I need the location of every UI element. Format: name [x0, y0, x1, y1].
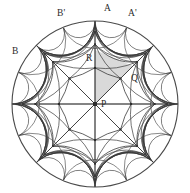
- geodesic-arc: [95, 152, 151, 182]
- vertex-marker: [52, 145, 54, 147]
- vertex-marker: [120, 77, 122, 79]
- geodesic-arc: [16, 104, 46, 160]
- label-b: B: [12, 47, 19, 57]
- vertex-marker: [136, 145, 138, 147]
- label-q: Q: [131, 74, 138, 84]
- geodesic-arc: [69, 130, 95, 141]
- vertex-marker: [154, 103, 156, 105]
- vertex-marker: [58, 103, 60, 105]
- vertex-marker: [136, 61, 138, 63]
- label-p: P: [101, 100, 106, 110]
- geodesic-arc: [39, 25, 95, 55]
- vertex-marker: [68, 77, 70, 79]
- hyperbolic-tessellation-figure: AA'B'BRQP: [0, 0, 190, 193]
- tessellation-drawing: [0, 0, 190, 193]
- vertex-marker: [130, 103, 132, 105]
- geodesic-arc: [143, 48, 173, 104]
- radial-spoke: [95, 104, 154, 163]
- vertex-marker: [94, 163, 96, 165]
- geodesic-arc: [95, 130, 121, 141]
- vertex-marker: [94, 43, 96, 45]
- label-a: A: [104, 4, 111, 14]
- geodesic-arc: [143, 104, 173, 160]
- geodesic-arc: [59, 104, 70, 130]
- vertex-marker: [120, 129, 122, 131]
- label-r: R: [86, 54, 93, 64]
- geodesic-arc: [121, 104, 132, 130]
- geodesic-arc: [69, 68, 95, 79]
- geodesic-arc: [16, 48, 46, 104]
- geodesic-arc: [95, 25, 151, 55]
- vertex-marker: [52, 61, 54, 63]
- geodesic-arc: [59, 78, 70, 104]
- geodesic-arc: [121, 78, 132, 104]
- label-a-prime: A': [128, 9, 137, 19]
- vertex-marker: [34, 103, 36, 105]
- vertex-marker: [94, 67, 96, 69]
- vertex-marker-p: [93, 102, 97, 106]
- vertex-marker: [68, 129, 70, 131]
- label-b-prime: B': [57, 9, 65, 19]
- vertex-marker: [94, 139, 96, 141]
- geodesic-arc: [39, 152, 95, 182]
- radial-spoke: [36, 104, 95, 163]
